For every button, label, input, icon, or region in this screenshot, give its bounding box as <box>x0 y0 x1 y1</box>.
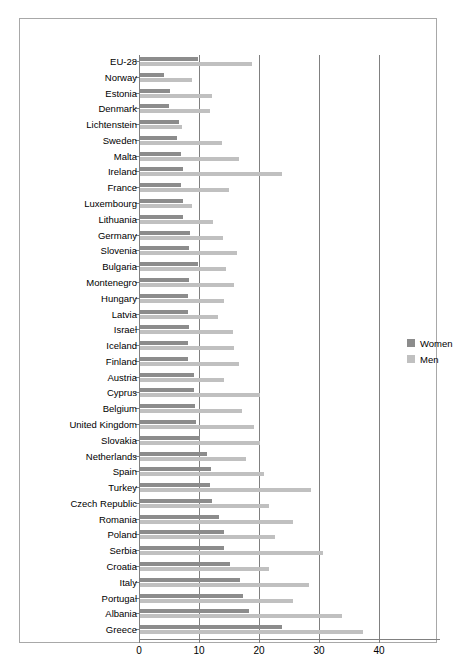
category-label: Croatia <box>0 560 137 573</box>
y-axis-line <box>139 55 140 640</box>
bar-men <box>139 78 192 82</box>
bar-women <box>139 594 243 598</box>
bar-men <box>139 141 222 145</box>
bar-men <box>139 504 269 508</box>
chart-row: Croatia <box>139 560 439 576</box>
bar-women <box>139 467 211 471</box>
bar-women <box>139 167 183 171</box>
legend-item-men[interactable]: Men <box>407 351 453 367</box>
bar-women <box>139 436 200 440</box>
category-label: Germany <box>0 229 137 242</box>
chart-row: Finland <box>139 355 439 371</box>
category-label: Denmark <box>0 102 137 115</box>
category-label: Sweden <box>0 134 137 147</box>
chart-row: Lithuania <box>139 213 439 229</box>
bar-women <box>139 246 189 250</box>
bar-men <box>139 220 213 224</box>
chart-row: Greece <box>139 623 439 639</box>
chart-row: Luxembourg <box>139 197 439 213</box>
chart-frame: EU-28NorwayEstoniaDenmarkLichtensteinSwe… <box>19 18 437 643</box>
bar-men <box>139 315 218 319</box>
legend-swatch-icon <box>407 355 415 363</box>
category-label: Israel <box>0 323 137 336</box>
bar-men <box>139 425 254 429</box>
bar-women <box>139 357 188 361</box>
chart-row: Italy <box>139 576 439 592</box>
bar-women <box>139 609 249 613</box>
bar-men <box>139 283 234 287</box>
bar-men <box>139 330 233 334</box>
chart-row: Belgium <box>139 402 439 418</box>
bar-women <box>139 499 212 503</box>
category-label: Luxembourg <box>0 197 137 210</box>
bar-women <box>139 420 196 424</box>
bar-women <box>139 625 282 629</box>
bar-men <box>139 172 282 176</box>
bar-men <box>139 109 210 113</box>
chart-row: EU-28 <box>139 55 439 71</box>
bar-women <box>139 325 189 329</box>
bar-men <box>139 62 252 66</box>
bar-men <box>139 441 260 445</box>
category-label: United Kingdom <box>0 418 137 431</box>
chart-row: Spain <box>139 465 439 481</box>
chart-legend: WomenMen <box>407 335 453 367</box>
chart-row: Albania <box>139 607 439 623</box>
chart-row: Slovakia <box>139 434 439 450</box>
category-label: Austria <box>0 371 137 384</box>
x-tick-40 <box>379 639 380 643</box>
category-label: Poland <box>0 528 137 541</box>
bar-men <box>139 583 309 587</box>
category-label: Albania <box>0 607 137 620</box>
bar-women <box>139 136 177 140</box>
chart-row: Latvia <box>139 308 439 324</box>
x-axis-line <box>139 639 440 640</box>
category-label: Lithuania <box>0 213 137 226</box>
legend-item-women[interactable]: Women <box>407 335 453 351</box>
bar-women <box>139 515 219 519</box>
category-label: Norway <box>0 71 137 84</box>
chart-row: Germany <box>139 229 439 245</box>
legend-label: Women <box>420 337 453 350</box>
category-label: Italy <box>0 576 137 589</box>
bar-women <box>139 294 188 298</box>
bar-women <box>139 104 169 108</box>
category-label: Turkey <box>0 481 137 494</box>
category-label: Latvia <box>0 308 137 321</box>
bar-men <box>139 346 234 350</box>
bar-men <box>139 457 246 461</box>
category-label: Belgium <box>0 402 137 415</box>
chart-row: Sweden <box>139 134 439 150</box>
chart-row: Netherlands <box>139 450 439 466</box>
bar-men <box>139 125 182 129</box>
chart-row: Ireland <box>139 165 439 181</box>
bar-men <box>139 393 260 397</box>
chart-row: Cyprus <box>139 386 439 402</box>
category-label: Portugal <box>0 592 137 605</box>
category-label: Spain <box>0 465 137 478</box>
x-tick-10 <box>199 639 200 643</box>
chart-row: Poland <box>139 528 439 544</box>
chart-row: Estonia <box>139 87 439 103</box>
bar-men <box>139 94 212 98</box>
bar-rows: EU-28NorwayEstoniaDenmarkLichtensteinSwe… <box>139 55 439 639</box>
category-label: EU-28 <box>0 55 137 68</box>
chart-row: Norway <box>139 71 439 87</box>
bar-women <box>139 310 188 314</box>
chart-row: Denmark <box>139 102 439 118</box>
chart-row: Malta <box>139 150 439 166</box>
bar-men <box>139 614 342 618</box>
category-label: Lichtenstein <box>0 118 137 131</box>
category-label: Netherlands <box>0 450 137 463</box>
category-label: Czech Republic <box>0 497 137 510</box>
bar-men <box>139 551 323 555</box>
bar-women <box>139 278 189 282</box>
category-label: Greece <box>0 623 137 636</box>
bar-women <box>139 73 164 77</box>
bar-women <box>139 452 207 456</box>
bar-women <box>139 231 190 235</box>
legend-label: Men <box>420 353 438 366</box>
chart-row: Turkey <box>139 481 439 497</box>
category-label: Montenegro <box>0 276 137 289</box>
category-label: France <box>0 181 137 194</box>
